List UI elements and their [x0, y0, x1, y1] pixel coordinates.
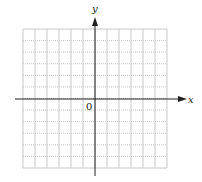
x-axis-label: x: [188, 94, 194, 105]
coordinate-plane: x y 0: [0, 0, 202, 182]
x-axis-arrow-icon: [178, 96, 187, 102]
x-axis: [15, 96, 187, 102]
origin-label: 0: [86, 101, 92, 112]
y-axis-arrow-icon: [92, 17, 98, 26]
y-axis-label: y: [91, 3, 98, 14]
